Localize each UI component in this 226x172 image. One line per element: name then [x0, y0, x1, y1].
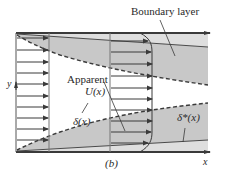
- boundary-layer-label: Boundary layer: [131, 6, 199, 17]
- apparent-u-label: U(x): [85, 86, 105, 97]
- inlet-velocity-arrows: [17, 38, 48, 140]
- delta-label: δ(x): [73, 116, 90, 127]
- delta-leader: [82, 103, 88, 113]
- diagram-canvas: [0, 0, 226, 172]
- y-axis-label: y: [7, 79, 11, 89]
- delta-star-label: δ*(x): [177, 112, 200, 123]
- figure-caption: (b): [105, 158, 118, 169]
- x-axis-label: x: [203, 157, 207, 167]
- boundary-layer-diagram: Boundary layer Apparent U(x) δ(x) δ*(x) …: [0, 0, 226, 172]
- apparent-label: Apparent: [67, 74, 108, 85]
